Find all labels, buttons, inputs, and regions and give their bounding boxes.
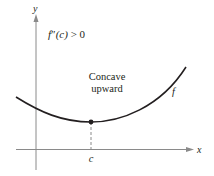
annotation-upward: upward <box>91 83 123 94</box>
point-label-c: c <box>89 153 94 164</box>
y-axis <box>34 14 39 170</box>
curve-label-f: f <box>172 86 177 97</box>
annotation-concave: Concave <box>89 71 126 82</box>
second-derivative-condition: f″(c) > 0 <box>48 28 86 41</box>
x-axis <box>16 147 194 152</box>
x-axis-arrow-icon <box>186 147 194 152</box>
point-c-marker <box>89 120 94 125</box>
concavity-diagram: y x f″(c) > 0 Concave upward f c <box>0 0 214 176</box>
y-axis-arrow-icon <box>34 14 39 22</box>
x-axis-label: x <box>196 144 202 155</box>
y-axis-label: y <box>32 3 38 14</box>
